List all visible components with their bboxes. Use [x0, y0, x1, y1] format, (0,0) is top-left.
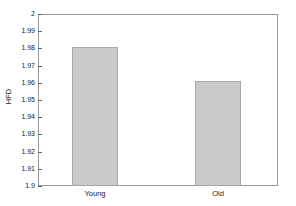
- y-tick-label: 1.93: [0, 130, 35, 138]
- y-tick-label: 2: [0, 10, 35, 18]
- y-tick-label: 1.98: [0, 44, 35, 52]
- y-tick-label-text: 1.92: [3, 148, 35, 156]
- y-tick-label: 1.97: [0, 62, 35, 70]
- y-axis-label: HFD: [4, 77, 13, 117]
- y-tick-mark: [38, 186, 42, 187]
- y-tick-label: 1.91: [0, 165, 35, 173]
- bar-young[interactable]: [72, 47, 118, 186]
- y-tick-label-text: 1.99: [3, 27, 35, 35]
- y-tick-label: 1.99: [0, 27, 35, 35]
- y-tick-label-text: 1.98: [3, 44, 35, 52]
- y-tick-label-text: 1.9: [3, 182, 35, 190]
- y-tick-label-text: 1.93: [3, 130, 35, 138]
- y-tick-label-text: 1.97: [3, 62, 35, 70]
- y-tick-label: 1.9: [0, 182, 35, 190]
- plot-area: [38, 14, 278, 186]
- x-tick-label-old: Old: [195, 189, 241, 198]
- y-tick-label: 1.92: [0, 148, 35, 156]
- y-tick-label-text: 2: [3, 10, 35, 18]
- y-tick-label-text: 1.91: [3, 165, 35, 173]
- x-tick-label-young: Young: [72, 189, 118, 198]
- bar-chart-figure: 2 1.99 1.98 1.97 1.96 1.95 1.94 1.93 1.9…: [0, 0, 296, 206]
- bar-old[interactable]: [195, 81, 241, 186]
